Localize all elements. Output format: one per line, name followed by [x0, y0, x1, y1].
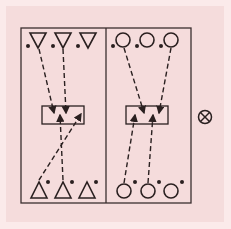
triangle-down-icon	[26, 33, 46, 48]
arrow	[39, 49, 54, 113]
center-box	[126, 106, 168, 124]
circled-x-icon	[199, 111, 212, 124]
triangle-up-icon	[31, 180, 50, 198]
arrow	[148, 115, 153, 183]
formation-diagram	[0, 0, 231, 229]
left-panel	[26, 33, 98, 198]
triangle-down-icon	[76, 33, 96, 48]
arrow	[159, 48, 171, 113]
right-panel	[111, 33, 184, 198]
circle-icon	[111, 33, 130, 48]
center-box	[42, 106, 84, 124]
circle-icon	[159, 33, 178, 48]
arrow	[124, 115, 135, 183]
circle-icon	[135, 33, 154, 48]
circle-icon	[141, 180, 161, 198]
arrow	[63, 49, 66, 113]
circle-icon	[164, 180, 184, 198]
arrow	[60, 115, 63, 180]
triangle-up-icon	[79, 180, 98, 198]
circle-icon	[117, 180, 137, 198]
arrow	[124, 48, 144, 113]
triangle-down-icon	[51, 33, 71, 48]
triangle-up-icon	[55, 180, 74, 198]
